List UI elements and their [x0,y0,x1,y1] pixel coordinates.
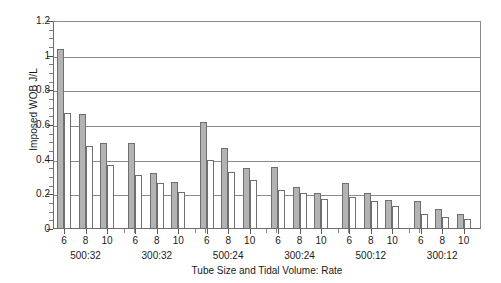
x-axis-group-label: 300:12 [405,250,479,261]
x-axis-group-label: 500:12 [334,250,408,261]
x-axis-separator-tick [266,229,267,233]
x-axis-tick [178,229,179,234]
bar-series-b [250,180,257,229]
y-axis-tick-label: 0.2 [8,189,50,199]
bar-series-b [278,190,285,229]
bar-series-b [64,113,71,229]
x-axis-separator-tick [124,229,125,233]
bar-series-b [464,219,471,229]
x-axis-group-label: 300:24 [263,250,337,261]
x-axis-tick [421,229,422,234]
x-axis-tick [278,229,279,234]
bar-series-a [364,193,371,229]
x-axis-title: Tube Size and Tidal Volume: Rate [53,265,481,276]
x-axis-tick [300,229,301,234]
bar-series-a [414,201,421,229]
bar-series-a [221,148,228,229]
bar-series-b [228,172,235,229]
bar-series-b [321,199,328,229]
x-axis-tick [207,229,208,234]
x-axis-separator-tick [195,229,196,233]
x-axis-tick [442,229,443,234]
bar-series-a [150,173,157,229]
bar-series-a [128,143,135,229]
x-axis-tick [392,229,393,234]
x-axis-tick [228,229,229,234]
bar-series-b [349,197,356,229]
bar-series-b [157,183,164,229]
x-axis-tick-label: 10 [451,235,477,246]
bar-series-a [342,183,349,229]
x-axis-tick [64,229,65,234]
bar-series-b [442,217,449,229]
x-axis-tick-label: 10 [379,235,405,246]
bar-series-a [385,200,392,229]
bar-series-b [107,165,114,229]
bar-chart: Imposed WOB J/L 00.20.40.60.811.2 681050… [0,0,501,283]
bar-series-b [392,206,399,229]
y-axis-tick-label: 0 [8,224,50,234]
bar-series-b [421,214,428,229]
x-axis-tick [157,229,158,234]
x-axis-tick [135,229,136,234]
bar-series-b [371,201,378,229]
x-axis-tick [371,229,372,234]
x-axis-tick [86,229,87,234]
bar-series-a [293,187,300,229]
x-axis-tick-label: 10 [237,235,263,246]
bar-series-a [200,122,207,229]
x-axis-tick [464,229,465,234]
y-axis-tick-label: 1 [8,51,50,61]
y-axis-tick-label: 0.6 [8,120,50,130]
x-axis-separator-tick [338,229,339,233]
y-axis-tick-label: 1.2 [8,16,50,26]
x-axis-tick-label: 10 [94,235,120,246]
bar-series-a [271,167,278,229]
bar-series-b [86,146,93,229]
x-axis-tick [349,229,350,234]
y-axis-tick-label: 0.8 [8,85,50,95]
bar-series-b [135,175,142,229]
x-axis-separator-tick [409,229,410,233]
x-axis-tick [107,229,108,234]
bar-series-b [300,193,307,229]
x-axis-group-label: 500:24 [191,250,265,261]
x-axis-tick-label: 10 [308,235,334,246]
x-axis-tick [321,229,322,234]
bar-series-a [171,182,178,229]
bar-series-a [100,143,107,229]
y-axis-tick-label: 0.4 [8,155,50,165]
x-axis-group-label: 500:32 [49,250,123,261]
bars-layer [53,21,481,229]
x-axis-separator-tick [276,229,277,233]
bar-series-a [457,214,464,229]
bar-series-a [435,209,442,229]
bar-series-b [207,160,214,229]
bar-series-b [178,192,185,229]
bar-series-a [314,193,321,229]
x-axis-group-label: 300:32 [120,250,194,261]
x-axis-tick [250,229,251,234]
x-axis-tick-label: 10 [165,235,191,246]
bar-series-a [57,49,64,229]
bar-series-a [243,168,250,229]
bar-series-a [79,114,86,229]
